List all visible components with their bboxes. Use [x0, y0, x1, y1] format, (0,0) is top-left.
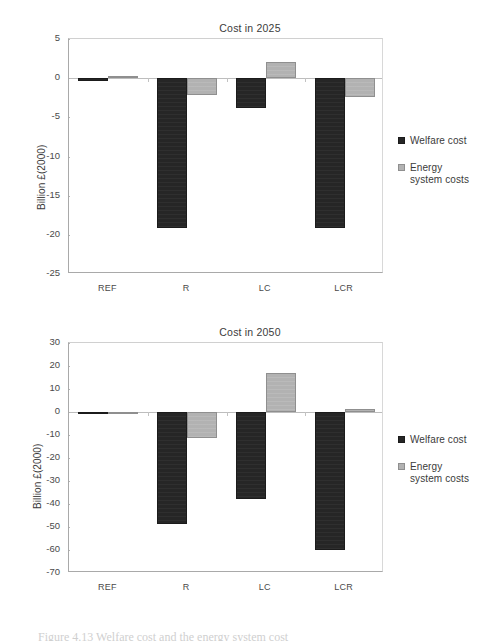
y-axis-tick-label: -5: [10, 111, 60, 121]
chart-legend: Welfare costEnergy system costs: [398, 434, 498, 500]
y-axis-tick-label: 0: [10, 72, 60, 82]
y-axis-tick-label: -60: [10, 544, 60, 554]
bar-lcr-welfare-cost: [315, 412, 345, 550]
y-axis-tick: [68, 196, 70, 197]
bar-ref-energy-system-costs: [108, 412, 138, 414]
y-axis-tick: [68, 78, 70, 79]
y-axis-tick: [68, 235, 70, 236]
y-axis-tick: [68, 157, 70, 158]
x-axis-tick: [227, 412, 228, 416]
x-axis-tick: [148, 412, 149, 416]
legend-item[interactable]: Energy system costs: [398, 162, 498, 187]
legend-label: Welfare cost: [410, 434, 467, 447]
y-axis-tick: [68, 343, 70, 344]
y-axis-tick: [68, 366, 70, 367]
x-axis-tick: [148, 78, 149, 82]
x-axis-tick-label: LCR: [304, 582, 384, 592]
bar-ref-welfare-cost: [78, 78, 108, 81]
legend-swatch-icon: [398, 463, 405, 470]
legend-item[interactable]: Welfare cost: [398, 434, 498, 447]
y-axis-tick: [68, 389, 70, 390]
bar-lc-energy-system-costs: [266, 373, 296, 412]
figure-caption: Figure 4.13 Welfare cost and the energy …: [38, 630, 478, 641]
y-axis-tick-label: 10: [10, 383, 60, 393]
bar-r-welfare-cost: [157, 78, 187, 228]
x-axis-tick-label: REF: [67, 283, 147, 293]
chart-title: Cost in 2025: [0, 22, 500, 34]
legend-label: Energy system costs: [410, 162, 469, 187]
bar-lcr-welfare-cost: [315, 78, 345, 228]
bar-ref-energy-system-costs: [108, 76, 138, 78]
y-axis-tick-label: 5: [10, 33, 60, 43]
x-axis-tick-label: LCR: [304, 283, 384, 293]
chart-cost-2025: Cost in 2025 Billion £(2000) Welfare cos…: [0, 0, 500, 304]
y-axis-tick: [68, 435, 70, 436]
y-axis-tick: [68, 504, 70, 505]
x-axis-tick: [305, 412, 306, 416]
chart-cost-2050: Cost in 2050 Billion £(2000) Welfare cos…: [0, 304, 500, 604]
bar-lcr-energy-system-costs: [345, 78, 375, 97]
bar-lc-welfare-cost: [236, 412, 266, 499]
legend-label: Welfare cost: [410, 135, 467, 148]
legend-item[interactable]: Energy system costs: [398, 461, 498, 486]
bar-lcr-energy-system-costs: [345, 409, 375, 412]
y-axis-tick: [68, 458, 70, 459]
plot-area: [68, 342, 383, 572]
y-axis-tick: [68, 117, 70, 118]
figure-container: Cost in 2025 Billion £(2000) Welfare cos…: [0, 0, 500, 641]
bar-lc-energy-system-costs: [266, 62, 296, 78]
x-axis-tick-label: R: [146, 283, 226, 293]
legend-label: Energy system costs: [410, 461, 469, 486]
y-axis-tick-label: -40: [10, 498, 60, 508]
y-axis-tick: [68, 481, 70, 482]
bar-lc-welfare-cost: [236, 78, 266, 108]
y-axis-tick-label: -25: [10, 268, 60, 278]
y-axis-tick: [68, 550, 70, 551]
bar-r-energy-system-costs: [187, 78, 217, 94]
legend-item[interactable]: Welfare cost: [398, 135, 498, 148]
y-axis-tick-label: -10: [10, 151, 60, 161]
x-axis-tick: [305, 78, 306, 82]
plot-area: [68, 38, 383, 273]
y-axis-tick-label: -70: [10, 567, 60, 577]
bar-r-energy-system-costs: [187, 412, 217, 438]
legend-swatch-icon: [398, 436, 405, 443]
y-axis-tick-label: -30: [10, 475, 60, 485]
y-axis-tick-label: 20: [10, 360, 60, 370]
y-axis-tick-label: 0: [10, 406, 60, 416]
y-axis-tick-label: -20: [10, 229, 60, 239]
y-axis-tick-label: -50: [10, 521, 60, 531]
x-axis-tick-label: R: [146, 582, 226, 592]
chart-legend: Welfare costEnergy system costs: [398, 135, 498, 201]
bar-ref-welfare-cost: [78, 412, 108, 414]
bar-r-welfare-cost: [157, 412, 187, 524]
y-axis-tick-label: -10: [10, 429, 60, 439]
x-axis-tick-label: REF: [67, 582, 147, 592]
y-axis-tick: [68, 39, 70, 40]
legend-swatch-icon: [398, 164, 405, 171]
x-axis-tick-label: LC: [225, 283, 305, 293]
legend-swatch-icon: [398, 137, 405, 144]
y-axis-tick-label: -20: [10, 452, 60, 462]
x-axis-tick-label: LC: [225, 582, 305, 592]
y-axis-tick-label: 30: [10, 337, 60, 347]
chart-title: Cost in 2050: [0, 326, 500, 338]
x-axis-tick: [227, 78, 228, 82]
y-axis-tick: [68, 412, 70, 413]
y-axis-tick: [68, 527, 70, 528]
y-axis-tick-label: -15: [10, 190, 60, 200]
